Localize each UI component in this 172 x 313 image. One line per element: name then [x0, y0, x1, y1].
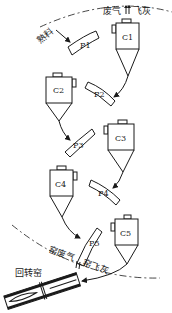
raw-material-arrow	[56, 30, 70, 42]
pipe-p1: P1	[68, 31, 99, 55]
exhaust-gas-label: 废气	[103, 5, 121, 16]
flow-arrow-c3-p4	[113, 172, 123, 188]
cyclone-c3: C3	[104, 120, 134, 172]
cyclone-c2: C2	[46, 73, 76, 121]
svg-text:C3: C3	[115, 134, 126, 143]
pipe-p3: P3	[65, 129, 95, 157]
cyclone-c1: C1	[112, 19, 139, 76]
kiln-gas-label: 窑废气	[47, 244, 76, 264]
pipe-p2: P2	[85, 82, 115, 106]
cyclone-c5: C5	[111, 215, 138, 264]
flow-arrow-c4-p5	[62, 217, 80, 238]
raw-material-label: 熟料	[34, 26, 55, 46]
svg-text:P4: P4	[98, 189, 108, 198]
fly-ash-label: 飞灰	[133, 5, 151, 16]
kiln-ash-label: 窑飞灰	[81, 257, 110, 277]
svg-text:C2: C2	[53, 86, 64, 95]
svg-text:P2: P2	[94, 90, 104, 99]
svg-text:C4: C4	[55, 180, 66, 189]
rotary-kiln-label: 回转窑	[15, 267, 42, 278]
preheater-diagram: 废气 飞灰 熟料 P1 C1 C2 P2 P3	[0, 0, 172, 313]
svg-text:C1: C1	[122, 33, 133, 42]
svg-text:C5: C5	[120, 229, 131, 238]
svg-text:P1: P1	[80, 41, 90, 50]
cyclone-c4: C4	[50, 166, 77, 217]
flow-arrow-c1-p2	[114, 76, 128, 97]
svg-text:P3: P3	[73, 141, 83, 150]
flow-arrow-c2-p3	[59, 121, 70, 140]
svg-text:P5: P5	[89, 239, 99, 248]
pipe-p4: P4	[89, 180, 120, 205]
rotary-kiln: 回转窑	[3, 267, 81, 311]
